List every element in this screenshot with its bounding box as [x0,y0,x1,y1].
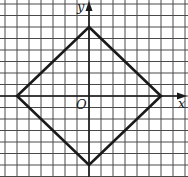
coordinate-plane: x y O [0,0,188,177]
x-axis-label: x [178,96,186,111]
y-axis-label: y [76,0,85,14]
grid-lines [0,0,188,177]
y-axis-arrow-icon [86,1,93,11]
coordinate-diagram: x y O [0,0,188,177]
origin-label: O [76,97,87,112]
